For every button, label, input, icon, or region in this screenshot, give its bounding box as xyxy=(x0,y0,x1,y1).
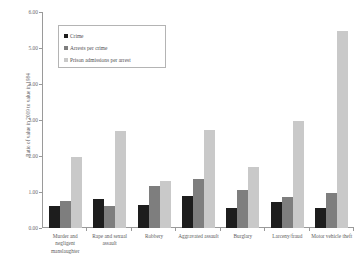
legend-swatch-icon xyxy=(64,58,68,62)
bar-chart: Ratio of value in 2009 to value in 1984 … xyxy=(0,0,363,266)
bar-group-bars xyxy=(265,12,309,228)
y-axis-tick-label: 5.00 xyxy=(8,45,38,51)
bar xyxy=(193,179,204,228)
y-axis-title: Ratio of value in 2009 to value in 1984 xyxy=(25,35,31,195)
bar-group xyxy=(310,12,354,228)
y-axis-tick-mark xyxy=(39,228,42,229)
bar xyxy=(271,202,282,228)
x-axis-tick-label: Larceny/fraud xyxy=(265,233,309,255)
y-axis-tick-mark xyxy=(39,120,42,121)
y-axis-tick-label: 3.00 xyxy=(8,117,38,123)
x-axis-tick-label: Rape and sexual assault xyxy=(87,233,131,255)
y-axis-tick-mark xyxy=(39,156,42,157)
x-axis-tick-label: Motor vehicle theft xyxy=(310,233,354,255)
bar xyxy=(204,130,215,228)
legend-item-label: Arrests per crime xyxy=(70,45,107,51)
x-axis-tick-labels: Murder and negligent manslaughterRape an… xyxy=(43,233,354,255)
bar xyxy=(60,201,71,228)
y-axis-tick-label: 1.00 xyxy=(8,189,38,195)
x-axis-tick-mark xyxy=(175,228,176,231)
bar xyxy=(226,208,237,228)
y-axis-tick-mark xyxy=(39,192,42,193)
x-axis-tick-mark xyxy=(220,228,221,231)
y-axis-tick-mark xyxy=(39,12,42,13)
bar xyxy=(115,131,126,228)
bar-group-bars xyxy=(310,12,354,228)
legend-swatch-icon xyxy=(64,34,68,38)
x-axis-tick-mark xyxy=(86,228,87,231)
y-axis-tick-label: 4.00 xyxy=(8,81,38,87)
x-axis-tick-label: Murder and negligent manslaughter xyxy=(43,233,87,255)
bar-group-bars xyxy=(176,12,220,228)
bar xyxy=(282,197,293,228)
y-axis-tick-label: 2.00 xyxy=(8,153,38,159)
bar xyxy=(149,186,160,228)
bar-group xyxy=(221,12,265,228)
x-axis-tick-label: Burglary xyxy=(221,233,265,255)
legend-item: Crime xyxy=(64,30,165,42)
legend-item: Prison admissions per arrest xyxy=(64,54,165,66)
bar xyxy=(160,181,171,228)
x-axis-tick-mark xyxy=(309,228,310,231)
x-axis-tick-label: Aggravated assault xyxy=(176,233,220,255)
x-axis-tick-mark xyxy=(264,228,265,231)
y-axis-tick-label: 6.00 xyxy=(8,9,38,15)
y-axis-tick-mark xyxy=(39,48,42,49)
bar xyxy=(182,196,193,228)
bar xyxy=(315,208,326,228)
y-axis-tick-mark xyxy=(39,84,42,85)
legend-item-label: Prison admissions per arrest xyxy=(70,57,131,63)
bar xyxy=(326,193,337,228)
legend-item: Arrests per crime xyxy=(64,42,165,54)
bar xyxy=(93,199,104,228)
bar xyxy=(248,167,259,228)
bar xyxy=(293,121,304,228)
chart-legend: CrimeArrests per crimePrison admissions … xyxy=(58,25,166,68)
bar xyxy=(337,31,348,228)
bar-group xyxy=(176,12,220,228)
bar-group xyxy=(265,12,309,228)
x-axis-tick-mark xyxy=(353,228,354,231)
bar xyxy=(71,157,82,228)
bar xyxy=(49,206,60,228)
bar xyxy=(104,206,115,228)
x-axis-tick-label: Robbery xyxy=(132,233,176,255)
legend-item-label: Crime xyxy=(70,33,83,39)
legend-swatch-icon xyxy=(64,46,68,50)
bar xyxy=(138,205,149,228)
bar xyxy=(237,190,248,228)
y-axis-tick-label: 0.00 xyxy=(8,225,38,231)
bar-group-bars xyxy=(221,12,265,228)
x-axis-tick-mark xyxy=(131,228,132,231)
